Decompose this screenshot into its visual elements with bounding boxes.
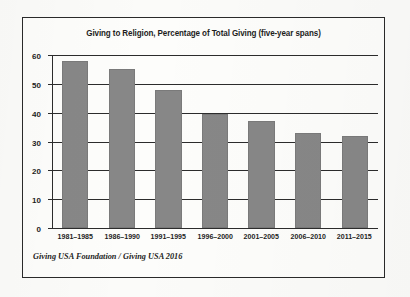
plot-area — [52, 55, 378, 228]
chart-title: Giving to Religion, Percentage of Total … — [29, 28, 377, 38]
x-axis-label: 2001–2005 — [240, 232, 283, 241]
y-axis-tick-label: 30 — [32, 138, 41, 147]
y-axis-tick: 30 — [48, 142, 53, 143]
y-axis-tick-label: 40 — [32, 109, 41, 118]
bar — [109, 69, 135, 228]
x-axis-labels-group: 1981–19851986–19901991–19951996–20002001… — [52, 232, 378, 246]
y-axis-tick: 60 — [48, 55, 53, 56]
y-axis-tick-label: 50 — [32, 80, 41, 89]
x-axis-label: 1991–1995 — [147, 232, 190, 241]
y-axis-tick-label: 60 — [32, 52, 41, 61]
gridline — [52, 84, 378, 85]
y-axis-tick: 10 — [48, 199, 53, 200]
y-axis-tick-label: 0 — [37, 225, 41, 234]
y-axis-tick-label: 10 — [32, 196, 41, 205]
bar — [248, 121, 274, 228]
gridline — [52, 55, 378, 56]
bar — [342, 136, 368, 228]
y-axis-tick: 40 — [48, 113, 53, 114]
y-axis: 0102030405060 — [52, 55, 53, 228]
bar — [155, 90, 181, 228]
y-axis-tick-label: 20 — [32, 167, 41, 176]
bar — [202, 114, 228, 228]
figure-page: Giving to Religion, Percentage of Total … — [0, 0, 410, 297]
x-axis-label: 2011–2015 — [333, 232, 376, 241]
y-axis-tick: 0 — [48, 228, 53, 229]
source-caption: Giving USA Foundation / Giving USA 2016 — [33, 252, 182, 261]
bar — [62, 61, 88, 228]
x-axis-label: 1996–2000 — [193, 232, 236, 241]
gridline — [52, 228, 378, 229]
y-axis-tick: 20 — [48, 170, 53, 171]
x-axis-label: 2006–2010 — [286, 232, 329, 241]
x-axis-label: 1986–1990 — [100, 232, 143, 241]
y-axis-tick: 50 — [48, 84, 53, 85]
bar — [295, 133, 321, 228]
x-axis-label: 1981–1985 — [54, 232, 97, 241]
